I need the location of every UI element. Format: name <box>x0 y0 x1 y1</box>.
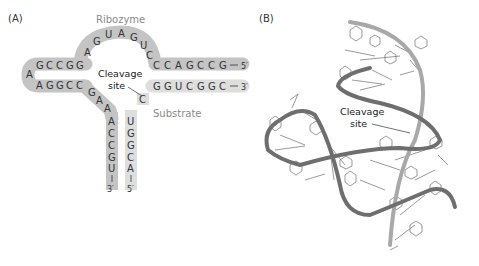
substrate-band <box>131 86 243 190</box>
substrate-right-stem: G G U C G G C <box>153 81 226 92</box>
cleavage-label-a-line2: site <box>108 80 125 91</box>
substrate-cleavage-nt: C <box>139 94 146 105</box>
ribozyme-apex-nt: A <box>26 69 33 80</box>
panel-label-b: (B) <box>259 13 274 24</box>
svg-text:G: G <box>88 87 96 98</box>
svg-text:C: C <box>108 140 115 151</box>
svg-text:U: U <box>127 116 134 127</box>
cleavage-pointer-a <box>128 87 142 96</box>
svg-text:G: G <box>93 36 101 47</box>
substrate-5prime-end: 5′ <box>127 185 134 194</box>
svg-text:G: G <box>186 60 194 71</box>
svg-text:C: C <box>197 60 204 71</box>
substrate-down-stem: U G G C A <box>127 116 135 174</box>
svg-text:G: G <box>164 81 172 92</box>
ribozyme-title: Ribozyme <box>96 14 145 25</box>
svg-text:G: G <box>219 60 227 71</box>
substrate-title: Substrate <box>153 108 201 119</box>
ribozyme-5prime-end: 5′ <box>241 62 248 71</box>
svg-text:A: A <box>104 103 111 114</box>
svg-text:C: C <box>208 60 215 71</box>
svg-text:A: A <box>96 95 103 106</box>
svg-text:G: G <box>66 60 74 71</box>
figure: (A) Ribozyme G C C G G A A G G C C A G U… <box>0 0 479 266</box>
svg-text:G: G <box>127 128 135 139</box>
svg-text:G: G <box>56 80 64 91</box>
svg-text:C: C <box>56 60 63 71</box>
svg-text:C: C <box>146 50 153 61</box>
cleavage-pointer-b <box>372 124 410 133</box>
svg-text:C: C <box>219 81 226 92</box>
ribozyme-3prime-end: 3′ <box>107 185 114 194</box>
base-atoms <box>270 26 448 250</box>
svg-text:A: A <box>127 163 134 174</box>
cleavage-label-b-line1: Cleavage <box>340 106 384 117</box>
svg-text:C: C <box>153 60 160 71</box>
svg-text:U: U <box>108 163 115 174</box>
svg-text:A: A <box>84 47 91 58</box>
svg-text:G: G <box>46 80 54 91</box>
substrate-backbone <box>350 22 423 245</box>
svg-text:G: G <box>153 81 161 92</box>
panel-label-a: (A) <box>8 13 23 24</box>
svg-text:A: A <box>108 116 115 127</box>
svg-text:A: A <box>36 80 43 91</box>
svg-text:C: C <box>108 128 115 139</box>
svg-text:U: U <box>175 81 182 92</box>
substrate-3prime-end: 3′ <box>241 83 248 92</box>
svg-text:G: G <box>36 60 44 71</box>
svg-text:C: C <box>66 80 73 91</box>
svg-text:C: C <box>46 60 53 71</box>
svg-text:G: G <box>127 140 135 151</box>
svg-text:G: G <box>130 32 138 43</box>
ribozyme-top-arm: G C C G G <box>36 60 84 71</box>
svg-text:U: U <box>105 29 112 40</box>
svg-text:A: A <box>118 28 125 39</box>
svg-text:C: C <box>127 152 134 163</box>
svg-text:G: G <box>108 152 116 163</box>
svg-text:G: G <box>197 81 205 92</box>
svg-text:C: C <box>164 60 171 71</box>
svg-text:A: A <box>175 60 182 71</box>
svg-text:G: G <box>208 81 216 92</box>
svg-text:C: C <box>186 81 193 92</box>
cleavage-label-a-line1: Cleavage <box>98 68 142 79</box>
cleavage-label-b-line2: site <box>350 118 367 129</box>
ribozyme-down-stem: A C C G U <box>108 116 116 174</box>
svg-text:C: C <box>76 80 83 91</box>
svg-text:G: G <box>76 60 84 71</box>
